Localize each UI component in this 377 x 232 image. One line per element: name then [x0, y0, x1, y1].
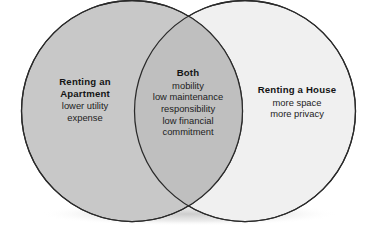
venn-diagram: Renting an Apartment lower utility expen…	[0, 0, 377, 232]
venn-circles-graphic	[0, 0, 377, 232]
